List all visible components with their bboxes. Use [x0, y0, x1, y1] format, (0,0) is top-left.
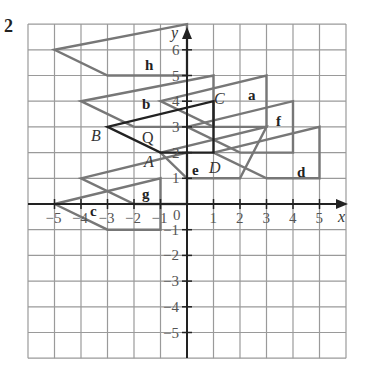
tick-labels: −5−4−3−2−112345654321−1−2−3−4−5: [46, 42, 324, 341]
svg-text:−2: −2: [125, 210, 141, 226]
svg-text:5: 5: [172, 68, 180, 84]
origin-label: 0: [173, 207, 181, 223]
svg-text:−2: −2: [163, 247, 179, 263]
svg-text:3: 3: [172, 119, 180, 135]
vertex-C: C: [214, 90, 225, 107]
svg-text:−4: −4: [163, 299, 179, 315]
svg-text:−4: −4: [72, 210, 88, 226]
svg-text:1: 1: [210, 210, 218, 226]
svg-text:−5: −5: [46, 210, 62, 226]
label-c: c: [90, 203, 97, 219]
y-axis-arrow-icon: [182, 27, 192, 39]
vertex-B: B: [91, 127, 101, 144]
label-d: d: [297, 164, 306, 180]
label-g: g: [142, 186, 150, 202]
svg-text:5: 5: [316, 210, 324, 226]
svg-text:1: 1: [172, 170, 180, 186]
svg-text:4: 4: [289, 210, 297, 226]
svg-text:2: 2: [236, 210, 244, 226]
svg-text:−5: −5: [163, 325, 179, 341]
svg-text:−1: −1: [163, 222, 179, 238]
vertex-D: D: [208, 159, 221, 176]
x-axis-label: x: [337, 208, 345, 225]
label-h: h: [145, 57, 154, 73]
svg-text:2: 2: [172, 145, 180, 161]
label-b: b: [142, 96, 150, 112]
svg-text:−3: −3: [163, 273, 179, 289]
vertex-A: A: [143, 153, 154, 170]
label-a: a: [248, 87, 256, 103]
label-Q: Q: [142, 129, 154, 146]
svg-text:−3: −3: [99, 210, 115, 226]
y-axis-label: y: [169, 24, 179, 42]
label-e: e: [192, 162, 199, 178]
svg-text:4: 4: [172, 93, 180, 109]
svg-text:3: 3: [263, 210, 271, 226]
coordinate-grid: −5−4−3−2−112345654321−1−2−3−4−5 x y 0 h …: [0, 0, 366, 374]
svg-text:6: 6: [172, 42, 180, 58]
